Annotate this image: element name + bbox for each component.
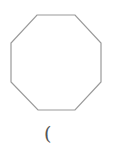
parenthesis-label: ( xyxy=(44,124,51,143)
octagon-shape xyxy=(11,15,101,110)
diagram-canvas xyxy=(0,0,114,146)
